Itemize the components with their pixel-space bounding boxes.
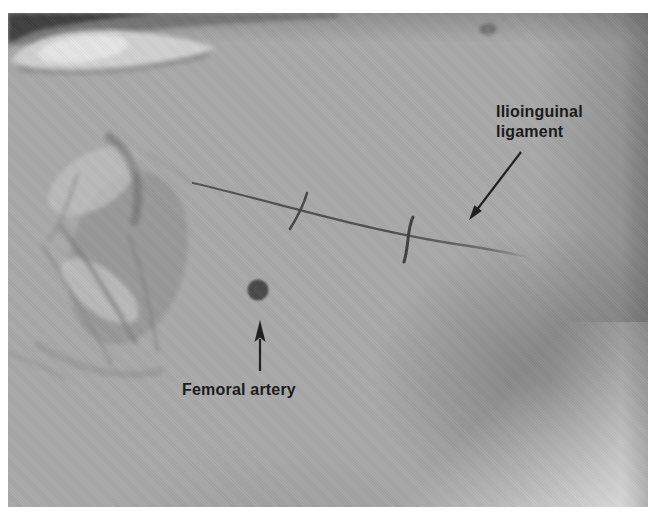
clinical-photo: Ilioinguinal ligament Femoral artery xyxy=(8,13,648,507)
femoral-arrow xyxy=(255,320,266,371)
femoral-artery-label: Femoral artery xyxy=(182,380,296,400)
annotation-layer xyxy=(8,13,648,507)
femoral-artery-dot xyxy=(248,280,269,301)
ilioinguinal-arrow xyxy=(469,152,521,220)
ilioinguinal-ligament-label: Ilioinguinal ligament xyxy=(496,102,610,142)
ligament-line xyxy=(193,183,530,258)
figure-page: Ilioinguinal ligament Femoral artery xyxy=(0,0,656,517)
tick-mark-2 xyxy=(404,217,413,262)
